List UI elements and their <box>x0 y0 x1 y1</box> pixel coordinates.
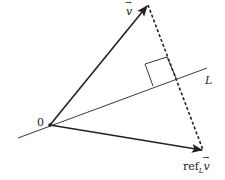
reflection-prefix: ref <box>183 160 199 173</box>
origin-point <box>48 123 52 127</box>
label-v: v <box>126 6 132 17</box>
diagram-graphics <box>0 0 225 180</box>
line-L <box>18 68 207 138</box>
vector-v-arrow <box>50 6 147 125</box>
vector-reflection-arrow <box>50 125 202 150</box>
label-origin: 0 <box>37 117 44 128</box>
vector-v-symbol: v <box>126 6 132 17</box>
label-reflection: refLv <box>183 161 210 175</box>
reflection-diagram: v L 0 refLv <box>0 0 225 180</box>
label-L: L <box>205 75 212 86</box>
reflection-vector-symbol: v <box>204 161 210 172</box>
